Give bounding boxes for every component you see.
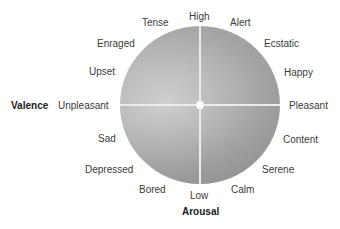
emotion-sad: Sad xyxy=(98,133,116,145)
arousal-axis-title: Arousal xyxy=(182,206,219,218)
origin-dot xyxy=(196,101,204,109)
emotion-alert: Alert xyxy=(230,17,251,29)
emotion-content: Content xyxy=(283,134,318,146)
arousal-high-label: High xyxy=(189,11,210,23)
emotion-enraged: Enraged xyxy=(97,38,135,50)
emotion-calm: Calm xyxy=(231,184,254,196)
emotion-happy: Happy xyxy=(284,67,313,79)
emotion-ecstatic: Ecstatic xyxy=(264,38,299,50)
emotion-upset: Upset xyxy=(89,66,115,78)
valence-pleasant-label: Pleasant xyxy=(289,100,328,112)
valence-axis-title: Valence xyxy=(11,100,48,112)
emotion-bored: Bored xyxy=(139,184,166,196)
emotion-tense: Tense xyxy=(142,17,169,29)
emotion-serene: Serene xyxy=(262,164,294,176)
arousal-low-label: Low xyxy=(190,190,208,202)
emotion-depressed: Depressed xyxy=(85,164,133,176)
valence-unpleasant-label: Unpleasant xyxy=(58,100,109,112)
affect-circumplex-diagram: High Tense Enraged Upset Alert Ecstatic … xyxy=(0,0,340,229)
